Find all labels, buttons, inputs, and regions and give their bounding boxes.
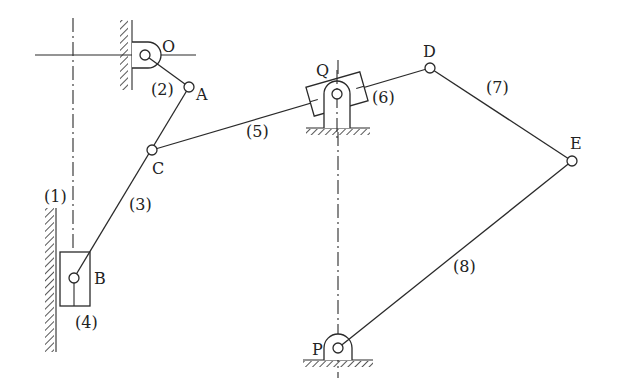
label-link-5: (5)	[246, 122, 269, 141]
joint-b	[69, 273, 79, 283]
label-o: O	[162, 37, 175, 56]
joint-o	[140, 50, 150, 60]
label-link-4: (4)	[75, 313, 98, 332]
joint-d	[425, 63, 435, 73]
label-link-8: (8)	[453, 257, 476, 276]
label-link-6: (6)	[372, 88, 395, 107]
joint-e	[567, 156, 577, 166]
joint-a	[184, 82, 194, 92]
label-link-3: (3)	[129, 195, 152, 214]
label-link-2: (2)	[151, 80, 174, 99]
label-b: B	[94, 269, 106, 288]
joint-c	[147, 145, 157, 155]
ground-pivot-q	[306, 128, 370, 135]
label-q: Q	[316, 61, 329, 80]
label-link-1: (1)	[44, 187, 67, 206]
label-c: C	[152, 159, 164, 178]
label-e: E	[570, 134, 582, 153]
label-d: D	[423, 42, 436, 61]
joint-q	[332, 89, 342, 99]
label-a: A	[195, 85, 208, 104]
ground-wall-left	[45, 208, 56, 352]
link-5	[152, 68, 430, 150]
joint-p	[333, 343, 343, 353]
link-8	[338, 161, 572, 348]
link-3	[74, 87, 189, 278]
label-p: P	[312, 340, 323, 359]
label-link-7: (7)	[486, 78, 509, 97]
mechanism-diagram: O A C B Q D E P (1) (2) (3) (4) (5) (6) …	[0, 0, 618, 392]
link-labels: (1) (2) (3) (4) (5) (6) (7) (8)	[44, 78, 509, 332]
